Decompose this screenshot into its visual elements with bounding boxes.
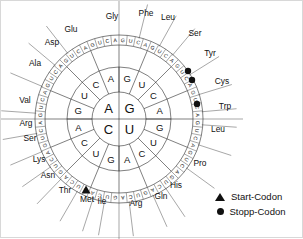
amino-acid-label: Ile	[98, 196, 107, 206]
svg-text:C: C	[75, 48, 82, 55]
svg-text:G: G	[41, 143, 48, 149]
svg-text:G: G	[89, 41, 95, 48]
svg-text:U: U	[183, 156, 190, 163]
svg-text:A: A	[37, 120, 43, 124]
svg-text:G: G	[121, 37, 125, 43]
diagram-frame: GUCA GUCAGUCAGUCAGUCA GUCAGUCAGUCAGUCAGU…	[0, 0, 303, 238]
svg-text:A: A	[157, 105, 164, 116]
triangle-icon	[215, 193, 225, 201]
amino-acid-label: Ser	[188, 28, 201, 38]
amino-acid-label: Ala	[29, 58, 41, 68]
amino-acid-label: Ser	[23, 133, 36, 143]
legend-row-start: Start-Codon	[215, 191, 285, 202]
svg-text:A: A	[41, 89, 48, 95]
svg-text:U: U	[75, 183, 82, 190]
svg-text:A: A	[187, 82, 194, 88]
svg-text:C: C	[192, 136, 199, 141]
amino-acid-label: His	[170, 180, 182, 190]
amino-acid-label: Leu	[211, 124, 225, 134]
amino-acid-label: Asn	[41, 170, 56, 180]
svg-text:U: U	[38, 105, 45, 110]
svg-text:C: C	[93, 79, 100, 90]
amino-acid-label: Pro	[193, 158, 206, 168]
svg-text:A: A	[82, 44, 88, 51]
amino-acid-label: Phe	[139, 8, 154, 18]
svg-text:C: C	[52, 68, 59, 75]
svg-text:A: A	[143, 41, 149, 48]
svg-text:A: A	[113, 37, 117, 43]
svg-text:U: U	[163, 179, 170, 186]
svg-text:U: U	[93, 148, 100, 159]
svg-text:G: G	[195, 121, 201, 125]
stop-codon-marker	[194, 101, 200, 107]
amino-acid-label: Asp	[45, 37, 60, 47]
amino-acid-label: Lys	[33, 154, 46, 164]
svg-text:C: C	[163, 52, 170, 59]
svg-text:C: C	[104, 122, 113, 137]
svg-text:U: U	[39, 135, 46, 140]
svg-text:G: G	[190, 89, 197, 95]
svg-text:U: U	[97, 39, 102, 46]
circle-icon	[217, 208, 224, 215]
svg-text:U: U	[48, 75, 55, 82]
svg-text:U: U	[156, 48, 163, 55]
svg-text:G: G	[156, 122, 163, 133]
svg-text:A: A	[120, 195, 124, 201]
svg-text:C: C	[105, 38, 110, 45]
wheel-sector-dividers	[35, 35, 203, 203]
svg-text:G: G	[62, 57, 69, 64]
svg-text:C: C	[150, 90, 157, 101]
stop-codon-marker	[185, 68, 191, 74]
svg-text:A: A	[108, 73, 115, 84]
svg-text:G: G	[150, 44, 156, 51]
svg-text:G: G	[124, 101, 134, 116]
svg-text:G: G	[75, 105, 82, 116]
amino-acid-label: Arg	[129, 198, 142, 208]
svg-text:U: U	[52, 163, 59, 170]
svg-text:C: C	[156, 183, 163, 190]
svg-text:G: G	[57, 169, 64, 176]
svg-text:C: C	[139, 148, 146, 159]
amino-acid-label: Arg	[19, 118, 32, 128]
amino-acid-label: Val	[19, 95, 31, 105]
amino-acid-label: Trp	[219, 101, 232, 111]
svg-text:C: C	[179, 163, 186, 170]
svg-text:U: U	[125, 122, 134, 137]
amino-acid-label: Leu	[161, 12, 175, 22]
svg-text:G: G	[174, 62, 181, 69]
svg-text:C: C	[81, 137, 88, 148]
svg-text:U: U	[69, 52, 76, 59]
stop-codon-marker	[189, 77, 195, 83]
legend-label-stop: Stopp-Codon	[230, 206, 286, 217]
amino-acid-label: Met	[80, 194, 95, 204]
svg-text:C: C	[38, 128, 45, 133]
svg-text:A: A	[75, 122, 82, 133]
svg-text:U: U	[194, 128, 201, 133]
legend-row-stop: Stopp-Codon	[215, 206, 285, 217]
amino-acid-label: Glu	[64, 24, 77, 34]
svg-text:G: G	[113, 195, 117, 201]
amino-acid-label: Cys	[215, 76, 229, 86]
svg-text:A: A	[190, 143, 197, 149]
amino-acid-label: Gly	[106, 11, 119, 21]
legend: Start-Codon Stopp-Codon	[215, 191, 285, 217]
svg-text:G: G	[123, 73, 130, 84]
svg-text:U: U	[139, 79, 146, 90]
legend-label-start: Start-Codon	[231, 191, 282, 202]
svg-text:C: C	[136, 39, 141, 46]
amino-acid-label: Thr	[59, 185, 72, 195]
svg-text:U: U	[150, 137, 157, 148]
svg-text:A: A	[124, 154, 131, 165]
svg-text:C: C	[39, 97, 46, 102]
svg-text:U: U	[81, 90, 88, 101]
amino-acid-label: Tyr	[204, 48, 216, 58]
svg-text:G: G	[187, 150, 194, 156]
svg-text:A: A	[195, 113, 201, 117]
amino-acid-label: Gln	[154, 191, 167, 201]
svg-text:G: G	[107, 154, 114, 165]
svg-text:G: G	[37, 113, 43, 117]
svg-text:G: G	[44, 82, 51, 88]
svg-text:A: A	[104, 101, 113, 116]
svg-text:U: U	[128, 38, 133, 45]
svg-text:C: C	[48, 156, 55, 163]
